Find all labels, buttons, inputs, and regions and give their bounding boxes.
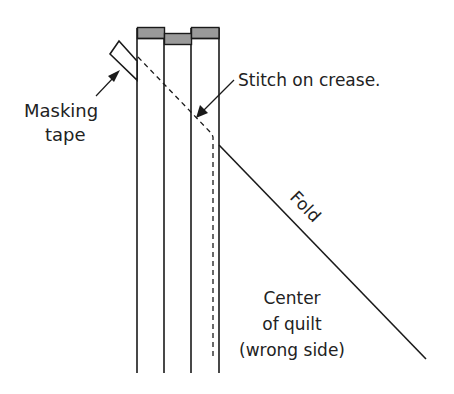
strip-caps [137,28,219,45]
center-label-2: of quilt [262,314,322,334]
center-label-1: Center [263,288,320,308]
binding-strips [137,28,219,373]
stitch-arrow [196,80,234,118]
stitch-line [138,57,213,360]
center-label-3: (wrong side) [239,340,345,360]
masking-tape-label-2: tape [45,124,86,145]
quilt-binding-diagram: Masking tape Stitch on crease. Fold Cent… [0,0,454,394]
masking-tape-arrow [96,70,120,96]
fold-line [219,145,426,359]
stitch-label: Stitch on crease. [238,70,381,90]
masking-tape-label-1: Masking [24,100,98,121]
